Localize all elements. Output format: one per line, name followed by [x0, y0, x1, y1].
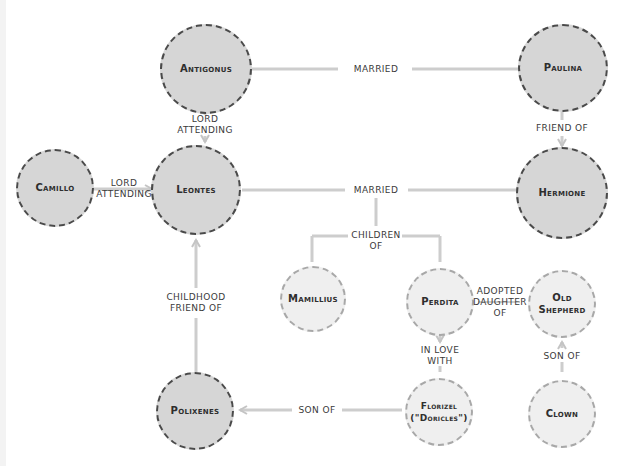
node-antigonus: Antigonus	[160, 24, 252, 114]
node-clown: Clown	[528, 380, 596, 448]
edge-label-polixenes-leontes: CHILDHOOD FRIEND OF	[166, 292, 225, 314]
edge-label-florizel-perdita: IN LOVE WITH	[421, 345, 460, 367]
edge-label-children: CHILDREN OF	[351, 230, 401, 252]
node-perdita: Perdita	[406, 268, 474, 336]
node-label: Florizel ("Doricles")	[410, 400, 467, 424]
edge-label-florizel-polixenes: SON OF	[298, 405, 335, 416]
node-label: Paulina	[544, 62, 583, 74]
node-label: Mamillius	[288, 293, 338, 305]
node-camillo: Camillo	[16, 149, 94, 227]
node-label: Camillo	[35, 182, 74, 194]
edge-label-perdita-shepherd: ADOPTED DAUGHTER OF	[473, 286, 527, 319]
edge-label-clown-shepherd: SON OF	[543, 351, 580, 362]
edge-label-antigonus-leontes: LORD ATTENDING	[177, 114, 233, 136]
node-paulina: Paulina	[518, 24, 608, 112]
node-old-shepherd: Old Shepherd	[528, 270, 596, 338]
node-label: Perdita	[421, 296, 459, 308]
node-label: Leontes	[176, 184, 216, 196]
node-florizel: Florizel ("Doricles")	[405, 378, 473, 446]
node-polixenes: Polixenes	[156, 372, 234, 450]
edge-label-leontes-hermione: MARRIED	[354, 185, 399, 196]
node-label: Clown	[546, 408, 579, 420]
edge-label-paulina-hermione: FRIEND OF	[536, 123, 588, 134]
node-mamillius: Mamillius	[280, 266, 346, 332]
node-leontes: Leontes	[151, 145, 241, 235]
node-label: Polixenes	[171, 405, 220, 417]
node-label: Hermione	[538, 187, 585, 199]
node-label: Antigonus	[180, 63, 232, 75]
node-hermione: Hermione	[516, 147, 608, 239]
node-label: Old Shepherd	[538, 292, 585, 316]
edge-label-camillo-leontes: LORD ATTENDING	[96, 178, 152, 200]
edge-label-antigonus-paulina: MARRIED	[354, 64, 399, 75]
